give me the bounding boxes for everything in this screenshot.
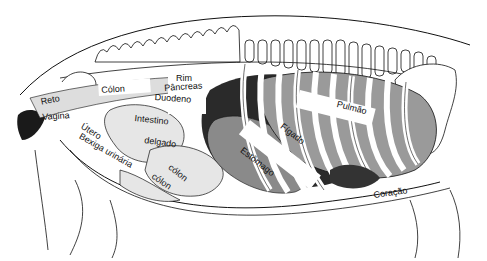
anatomy-illustration — [0, 0, 487, 261]
label-vagina: Vagina — [42, 111, 70, 122]
label-colon-top: Cólon — [101, 84, 125, 95]
spine — [60, 25, 436, 78]
front-leg — [410, 190, 460, 258]
anatomy-diagram: Reto Vagina Útero Bexiga urinária Cólon … — [0, 0, 487, 261]
hind-leg — [35, 150, 117, 258]
